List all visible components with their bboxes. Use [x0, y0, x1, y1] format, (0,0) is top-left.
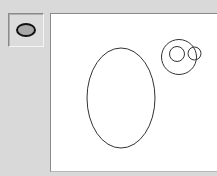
shapes-layer: [0, 0, 217, 176]
drawing-canvas[interactable]: [50, 13, 217, 172]
circle-shape[interactable]: [162, 40, 197, 75]
ellipse-shape[interactable]: [87, 48, 155, 148]
circle-shape[interactable]: [170, 47, 185, 62]
